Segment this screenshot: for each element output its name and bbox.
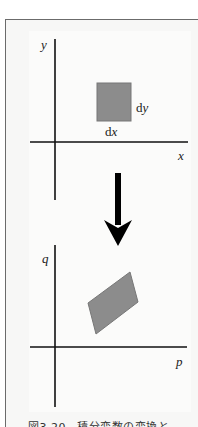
area-element-square (97, 83, 131, 121)
transformed-parallelogram (88, 272, 138, 334)
figure-caption: 図3.20 積分変数の変換と (28, 418, 198, 427)
transformation-diagram: y x dy dx q p (0, 0, 198, 427)
dx-label: dx (105, 124, 118, 139)
y-axis-label: y (39, 37, 47, 52)
down-arrow-icon (104, 173, 132, 246)
dy-label: dy (136, 100, 149, 115)
x-axis-label: x (177, 148, 184, 163)
p-axis-label: p (175, 354, 183, 369)
q-axis-label: q (42, 251, 49, 266)
bottom-axes (30, 245, 187, 407)
